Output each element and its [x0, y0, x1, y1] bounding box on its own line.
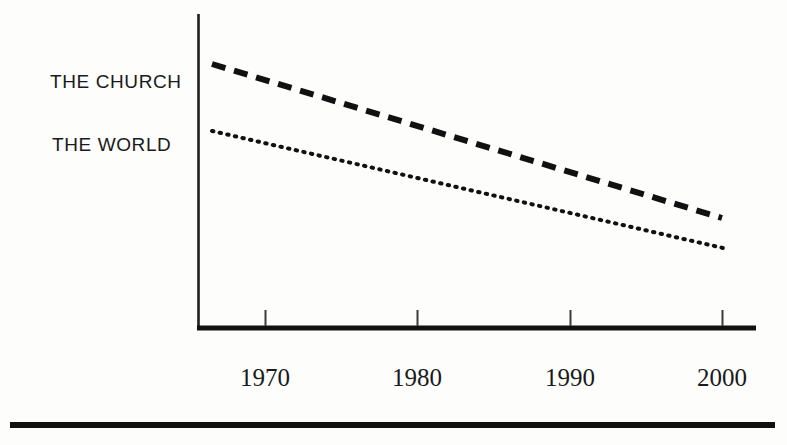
chart-figure: THE CHURCH THE WORLD 1970 1980 1990 2000 — [0, 0, 787, 445]
series-line-the-world — [212, 131, 723, 248]
x-tick-label-1970: 1970 — [240, 365, 290, 390]
bottom-divider-rule — [10, 422, 775, 428]
series-line-the-church — [212, 64, 722, 218]
x-tick-label-2000: 2000 — [697, 365, 747, 390]
series-label-the-church: THE CHURCH — [50, 72, 182, 91]
series-label-the-world: THE WORLD — [52, 135, 171, 154]
x-tick-label-1980: 1980 — [392, 365, 442, 390]
x-tick-label-1990: 1990 — [545, 365, 595, 390]
